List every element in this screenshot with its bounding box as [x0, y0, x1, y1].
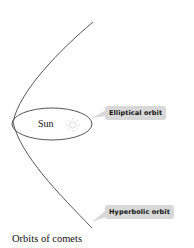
elliptical-label-pointer: [92, 110, 106, 118]
sun-label: Sun: [38, 118, 54, 129]
elliptical-orbit-label: Elliptical orbit: [105, 106, 166, 120]
sun-icon: [66, 118, 80, 132]
hyperbolic-orbit-label: Hyperbolic orbit: [105, 205, 174, 219]
hyperbolic-label-pointer: [92, 210, 106, 222]
figure-caption: Orbits of comets: [12, 233, 82, 244]
